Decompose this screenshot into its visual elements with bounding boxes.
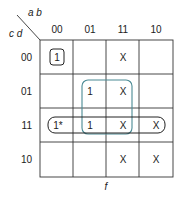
group-row-11: [48, 117, 165, 133]
cell-00-11: X: [120, 52, 127, 63]
row-header-01: 01: [21, 86, 33, 97]
row-header-00: 00: [21, 52, 33, 63]
col-header-01: 01: [84, 24, 96, 35]
cell-01-01: 1: [87, 86, 93, 97]
karnaugh-map: a b c d 00 01 11 10 00 01 11 10 1 X 1 X …: [0, 0, 183, 200]
cell-11-10: X: [153, 120, 160, 131]
col-header-10: 10: [150, 24, 162, 35]
cell-01-11: X: [120, 86, 127, 97]
cell-11-00: 1*: [53, 120, 63, 131]
cell-10-11: X: [120, 154, 127, 165]
cell-11-11: X: [120, 120, 127, 131]
col-header-11: 11: [118, 24, 129, 35]
function-label: f: [105, 181, 109, 192]
row-header-10: 10: [21, 154, 33, 165]
row-var-label: c d: [9, 28, 23, 39]
cell-11-01: 1: [87, 120, 93, 131]
cell-00-00: 1: [54, 52, 60, 63]
col-var-label: a b: [28, 7, 42, 18]
col-header-00: 00: [51, 24, 63, 35]
cell-10-10: X: [153, 154, 160, 165]
row-header-11: 11: [22, 120, 33, 131]
